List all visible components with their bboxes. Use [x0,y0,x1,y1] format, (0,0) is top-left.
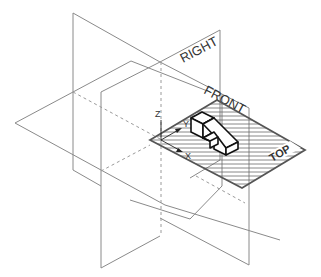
x-axis-label: X [185,151,191,161]
front-plane: FRONT [130,62,249,265]
right-plane-label: RIGHT [177,33,220,65]
center-vertical-plane [101,62,160,268]
z-axis-label: Z [155,109,161,119]
isometric-object [191,112,238,155]
front-plane-label: FRONT [202,82,249,116]
axes: Z Y X [155,109,191,161]
horizontal-plane [15,61,280,240]
projection-planes-diagram: RIGHT FRONT [0,0,321,277]
left-vertical-plane [73,13,160,186]
y-axis-label: Y [183,119,189,129]
